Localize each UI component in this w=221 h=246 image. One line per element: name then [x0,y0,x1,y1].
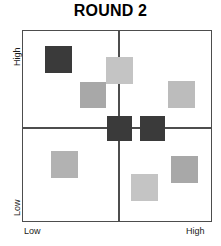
y-axis-high-label: High [12,47,22,66]
data-square-bottom-left-grey [51,151,78,178]
data-square-bottom-right-grey [171,156,198,183]
x-axis-low-label: Low [24,226,41,236]
data-square-center-left-dark [107,116,132,141]
data-square-bottom-mid-light [131,174,158,201]
data-square-upper-mid-grey [80,82,106,108]
data-square-top-center-light [106,57,133,84]
x-axis-high-label: High [186,226,205,236]
y-axis-low-label: Low [12,199,22,216]
quadrant-plot-area [22,30,212,222]
data-square-top-left-dark [45,46,72,73]
chart-title: ROUND 2 [0,1,221,20]
data-square-center-right-dark [140,116,165,141]
data-square-top-right-light [168,81,195,108]
